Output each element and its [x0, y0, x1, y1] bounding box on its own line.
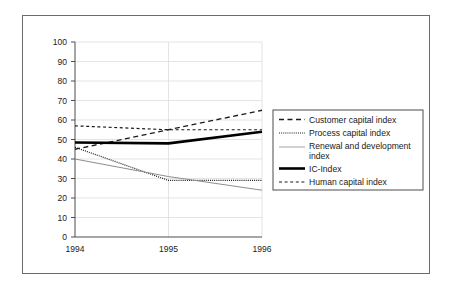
x-tick-label: 1996 — [253, 244, 272, 254]
y-tick-label: 100 — [53, 37, 67, 47]
legend-label-renewal-and-development-index: Renewal and development — [309, 141, 411, 151]
y-tick-labels: 100 90 80 70 60 50 40 30 20 10 0 — [53, 37, 67, 242]
legend-label-process-capital-index: Process capital index — [309, 128, 391, 138]
y-tick-label: 90 — [58, 57, 68, 67]
y-tick-label: 80 — [58, 76, 68, 86]
x-tick-label: 1995 — [159, 244, 178, 254]
x-tick-labels: 1994 1995 1996 — [66, 244, 272, 254]
y-tick-label: 10 — [58, 213, 68, 223]
y-tick-label: 70 — [58, 96, 68, 106]
legend-label-human-capital-index: Human capital index — [309, 177, 388, 187]
figure-container: 100 90 80 70 60 50 40 30 20 10 0 1994 19… — [0, 0, 453, 290]
y-tick-label: 40 — [58, 154, 68, 164]
line-chart: 100 90 80 70 60 50 40 30 20 10 0 1994 19… — [0, 0, 453, 290]
y-tick-label: 50 — [58, 135, 68, 145]
y-tick-marks — [71, 42, 75, 237]
y-tick-label: 0 — [62, 232, 67, 242]
legend-label-customer-capital-index: Customer capital index — [309, 115, 397, 125]
legend-label-ic-index: IC-Index — [309, 164, 342, 174]
y-tick-label: 20 — [58, 193, 68, 203]
y-tick-label: 30 — [58, 174, 68, 184]
y-tick-label: 60 — [58, 115, 68, 125]
legend-label-renewal-and-development-index-line2: index — [309, 151, 330, 161]
legend: Customer capital index Process capital i… — [273, 110, 423, 190]
x-tick-label: 1994 — [66, 244, 85, 254]
